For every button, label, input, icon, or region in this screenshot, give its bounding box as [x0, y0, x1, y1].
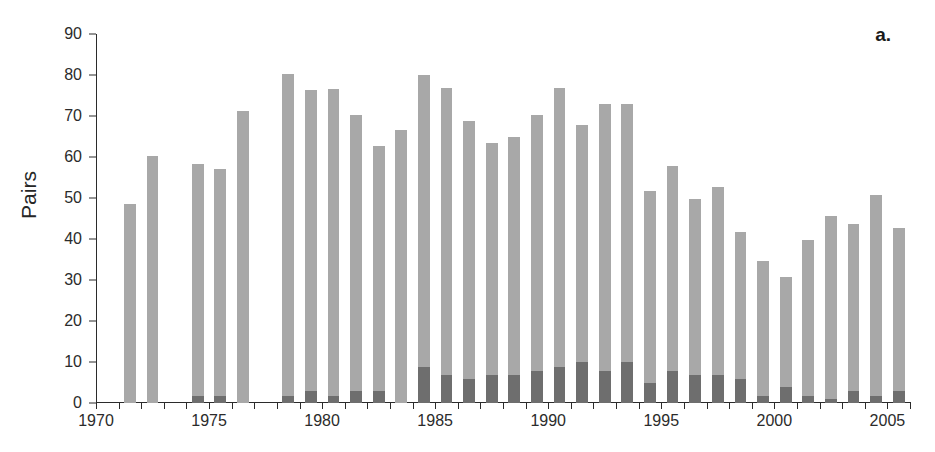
bar-sub: [712, 375, 724, 403]
x-tick-mark: [277, 402, 278, 409]
bar-group: [395, 34, 407, 403]
bar-sub: [441, 375, 453, 403]
x-tick-mark: [887, 402, 888, 409]
bar-sub: [689, 375, 701, 403]
bar-group: [441, 34, 453, 403]
bar-sub: [373, 391, 385, 403]
bar-total: [689, 199, 701, 403]
bar-sub: [192, 396, 204, 403]
figure-panel-a: Pairs a. 0102030405060708090 19701975198…: [0, 0, 935, 452]
x-tick-mark: [616, 402, 617, 409]
bar-group: [531, 34, 543, 403]
x-tick-mark: [503, 402, 504, 409]
x-tick-mark: [119, 402, 120, 409]
bar-total: [305, 90, 317, 403]
x-tick-mark: [865, 402, 866, 409]
bar-group: [350, 34, 362, 403]
bar-group: [282, 34, 294, 403]
y-tick-label: 80: [12, 66, 82, 84]
bar-total: [463, 121, 475, 403]
bar-group: [735, 34, 747, 403]
bar-total: [735, 232, 747, 403]
x-tick-mark: [458, 402, 459, 409]
bar-group: [644, 34, 656, 403]
bar-sub: [870, 396, 882, 403]
bar-total: [667, 166, 679, 403]
bar-sub: [576, 362, 588, 403]
x-tick-label: 1990: [530, 412, 566, 430]
bar-total: [893, 228, 905, 403]
x-tick-label: 2000: [757, 412, 793, 430]
x-tick-mark: [186, 402, 187, 409]
bar-group: [237, 34, 249, 403]
x-tick-mark: [480, 402, 481, 409]
x-tick-mark: [435, 402, 436, 409]
bar-total: [192, 164, 204, 403]
bar-group: [848, 34, 860, 403]
bar-sub: [531, 371, 543, 403]
x-tick-label: 2005: [870, 412, 906, 430]
y-tick-mark: [89, 157, 96, 158]
bar-total: [486, 143, 498, 403]
bar-total: [328, 89, 340, 403]
x-tick-mark: [910, 402, 911, 409]
bar-group: [373, 34, 385, 403]
x-tick-mark: [367, 402, 368, 409]
y-tick-mark: [89, 280, 96, 281]
bar-total: [237, 111, 249, 403]
bar-group: [667, 34, 679, 403]
x-tick-mark: [232, 402, 233, 409]
bar-sub: [418, 367, 430, 403]
bar-total: [621, 104, 633, 403]
bar-total: [825, 216, 837, 403]
y-tick-label: 40: [12, 230, 82, 248]
bar-total: [531, 115, 543, 403]
bar-group: [893, 34, 905, 403]
x-tick-mark: [322, 402, 323, 409]
bar-sub: [667, 371, 679, 403]
y-tick-mark: [89, 403, 96, 404]
bar-total: [644, 191, 656, 403]
bar-group: [780, 34, 792, 403]
x-tick-mark: [345, 402, 346, 409]
x-tick-mark: [797, 402, 798, 409]
y-tick-label: 10: [12, 353, 82, 371]
bar-group: [712, 34, 724, 403]
bar-total: [848, 224, 860, 403]
bar-sub: [486, 375, 498, 403]
bar-group: [599, 34, 611, 403]
bar-total: [147, 156, 159, 403]
bar-total: [576, 125, 588, 403]
bar-total: [418, 75, 430, 403]
bar-sub: [599, 371, 611, 403]
x-tick-label: 1995: [643, 412, 679, 430]
bar-group: [825, 34, 837, 403]
x-tick-mark: [661, 402, 662, 409]
x-tick-mark: [164, 402, 165, 409]
x-tick-mark: [820, 402, 821, 409]
x-tick-label: 1975: [191, 412, 227, 430]
bar-total: [214, 169, 226, 403]
bar-sub: [463, 379, 475, 403]
bar-total: [757, 261, 769, 403]
x-tick-mark: [209, 402, 210, 409]
bar-total: [373, 146, 385, 403]
bar-group: [305, 34, 317, 403]
x-tick-mark: [390, 402, 391, 409]
x-tick-label: 1970: [78, 412, 114, 430]
y-tick-mark: [89, 362, 96, 363]
x-tick-label: 1985: [417, 412, 453, 430]
bar-total: [441, 88, 453, 403]
x-tick-mark: [571, 402, 572, 409]
y-tick-label: 50: [12, 189, 82, 207]
y-tick-mark: [89, 198, 96, 199]
y-tick-label: 30: [12, 271, 82, 289]
x-tick-mark: [254, 402, 255, 409]
bar-group: [757, 34, 769, 403]
bar-sub: [328, 396, 340, 403]
x-tick-mark: [548, 402, 549, 409]
bar-sub: [282, 396, 294, 403]
bar-group: [802, 34, 814, 403]
bar-sub: [644, 383, 656, 403]
y-tick-mark: [89, 239, 96, 240]
